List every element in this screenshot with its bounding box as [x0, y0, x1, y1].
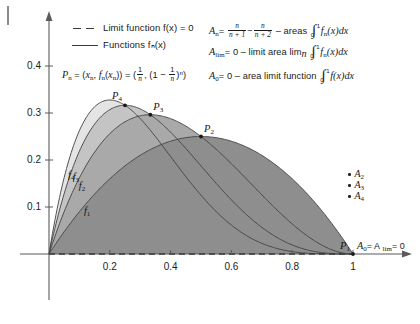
curve-label-f_4: f4 — [68, 169, 74, 182]
point-marker-P4 — [123, 103, 127, 107]
point-label-P1: P1 — [340, 240, 350, 253]
y-axis-arrow — [46, 11, 53, 21]
integral-sign-icon: ∫01 — [309, 46, 320, 57]
point-label-P2: P2 — [204, 123, 214, 136]
point-marker-P2 — [199, 135, 203, 139]
formula-an: An= nn + 1−nn + 2 – areas ∫01fn(x)dx — [209, 22, 348, 39]
y-tick-label: 0.2 — [3, 154, 41, 165]
x-tick-label: 1 — [333, 261, 373, 272]
curve-label-f_2: f2 — [79, 180, 85, 193]
area-fills-group — [49, 100, 353, 254]
bullet-icon — [348, 195, 351, 198]
bullet-icon — [348, 173, 351, 176]
integral-sign-icon: ∫01 — [310, 25, 321, 36]
point-label-P4: P4 — [112, 90, 122, 103]
y-tick-label: 0.1 — [3, 201, 41, 212]
formula-a0: A0= 0 – area limit function ∫01f(x)dx — [209, 70, 354, 83]
x-tick-label: 0.8 — [272, 261, 312, 272]
curve-label-f_1: f1 — [84, 205, 90, 218]
integral-sign-icon: ∫01 — [319, 70, 330, 81]
x-tick-label: 0.4 — [151, 261, 191, 272]
y-tick-label: 0.4 — [3, 60, 41, 71]
area-key-item-a4: A4 — [348, 190, 364, 203]
bullet-icon — [348, 184, 351, 187]
formula-alim: Alim= 0 – limit area limn ∫01fn(x)dx — [209, 46, 348, 59]
legend-entry-limit-function: Limit function f(x) = 0 — [72, 22, 194, 33]
point-label-P3: P3 — [153, 101, 163, 114]
point-marker-P3 — [148, 113, 152, 117]
point-marker-P1 — [351, 252, 355, 256]
y-tick-label: 0.3 — [3, 107, 41, 118]
legend-label-functions: Functions fₙ(x) — [103, 39, 166, 50]
x-tick-label: 0.6 — [211, 261, 251, 272]
solid-line-key — [72, 41, 98, 49]
pn-definition-formula: Pn = (xn, fn(xn)) = (1n, (1 − 1n)n) — [62, 66, 186, 83]
dashed-line-key — [72, 24, 98, 32]
legend-label-limit-function: Limit function f(x) = 0 — [103, 22, 194, 33]
p1-area-note: A0= A lim= 0 — [357, 240, 405, 253]
legend-entry-functions: Functions fₙ(x) — [72, 39, 166, 50]
x-tick-label: 0.2 — [90, 261, 130, 272]
